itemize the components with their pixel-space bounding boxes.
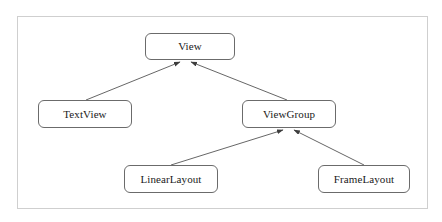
node-textview[interactable]: TextView bbox=[38, 100, 132, 128]
node-framelayout-label: FrameLayout bbox=[334, 173, 394, 184]
node-linearlayout[interactable]: LinearLayout bbox=[124, 165, 218, 193]
edge-framelayout-to-viewgroup bbox=[294, 130, 364, 165]
node-viewgroup-label: ViewGroup bbox=[263, 108, 315, 119]
edge-textview-to-view bbox=[86, 62, 180, 100]
node-view[interactable]: View bbox=[145, 33, 235, 60]
diagram-screen: View TextView ViewGroup LinearLayout Fra… bbox=[0, 0, 442, 222]
node-framelayout[interactable]: FrameLayout bbox=[318, 165, 410, 193]
node-linearlayout-label: LinearLayout bbox=[140, 173, 201, 184]
node-textview-label: TextView bbox=[63, 108, 106, 119]
edge-linearlayout-to-viewgroup bbox=[171, 130, 283, 165]
edge-viewgroup-to-view bbox=[191, 62, 287, 100]
node-viewgroup[interactable]: ViewGroup bbox=[242, 100, 336, 128]
node-view-label: View bbox=[178, 41, 202, 52]
